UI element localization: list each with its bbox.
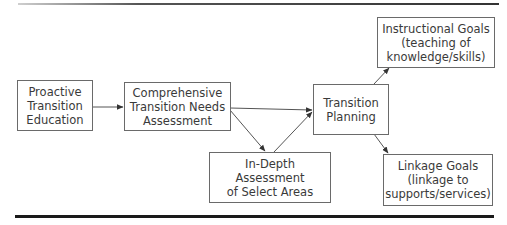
diagram-canvas: Proactive Transition Education Comprehen… — [0, 0, 507, 225]
node-instructional-goals: Instructional Goals (teaching of knowled… — [377, 17, 495, 68]
arrow-indepth-to-planning — [274, 112, 312, 152]
arrow-comprehensive-to-planning — [230, 108, 312, 110]
bottom-rule — [15, 215, 494, 218]
arrow-planning-to-linkage — [374, 134, 388, 153]
node-proactive-transition-education: Proactive Transition Education — [17, 80, 93, 131]
node-transition-planning: Transition Planning — [313, 84, 389, 135]
top-rule — [18, 3, 499, 5]
arrow-comprehensive-to-indepth — [230, 110, 265, 151]
arrow-planning-to-instructional — [374, 68, 389, 84]
node-comprehensive-transition-needs-assessment: Comprehensive Transition Needs Assessmen… — [124, 82, 231, 131]
node-linkage-goals: Linkage Goals (linkage to supports/servi… — [383, 154, 493, 206]
node-in-depth-assessment: In-Depth Assessment of Select Areas — [209, 152, 331, 203]
